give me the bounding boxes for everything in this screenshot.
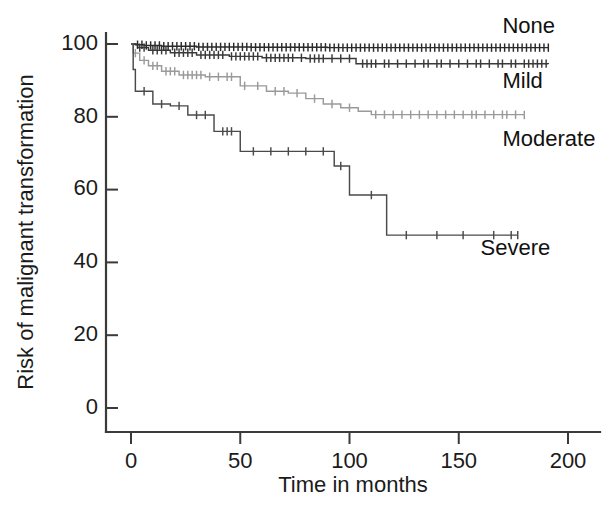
y-tick-label-60: 60 — [74, 175, 98, 200]
curve-label-severe: Severe — [481, 235, 551, 260]
km-curve-moderate — [131, 44, 524, 115]
y-tick-label-40: 40 — [74, 248, 98, 273]
km-survival-chart: 020406080100 050100150200 NoneMildModera… — [0, 0, 611, 517]
curve-label-mild: Mild — [502, 68, 542, 93]
km-curve-severe — [131, 44, 518, 235]
x-tick-label-150: 150 — [440, 448, 477, 473]
x-axis-title: Time in months — [278, 472, 428, 497]
x-tick-label-100: 100 — [331, 448, 368, 473]
y-tick-label-20: 20 — [74, 321, 98, 346]
x-tick-label-50: 50 — [228, 448, 252, 473]
y-tick-label-80: 80 — [74, 103, 98, 128]
km-curve-none — [131, 44, 548, 48]
x-tick-label-0: 0 — [125, 448, 137, 473]
x-axis-ticks: 050100150200 — [125, 432, 586, 473]
y-tick-label-0: 0 — [86, 394, 98, 419]
curves-layer — [131, 44, 548, 235]
y-axis-ticks: 020406080100 — [61, 30, 118, 419]
x-tick-label-200: 200 — [550, 448, 587, 473]
chart-canvas: 020406080100 050100150200 NoneMildModera… — [0, 0, 611, 517]
curve-label-none: None — [502, 13, 555, 38]
curve-label-moderate: Moderate — [502, 126, 595, 151]
y-tick-label-100: 100 — [61, 30, 98, 55]
censor-marks-layer — [135, 41, 548, 240]
y-axis-title: Risk of malignant transformation — [13, 74, 38, 389]
curve-labels-layer: NoneMildModerateSevere — [481, 13, 596, 260]
